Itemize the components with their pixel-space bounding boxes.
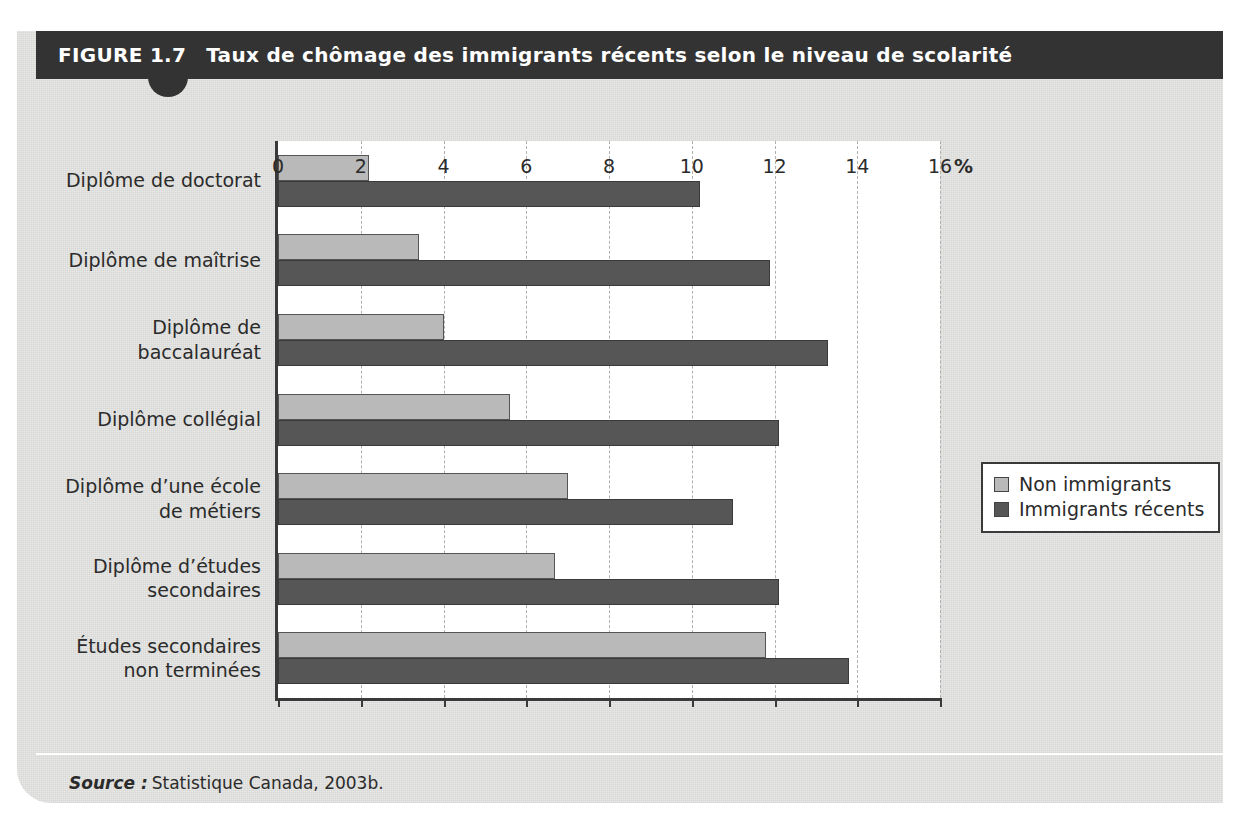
x-axis-tick-label: 16 (928, 155, 952, 177)
bar-immigrants-recents (278, 658, 849, 684)
x-axis-tick (775, 698, 777, 707)
category-labels: Diplôme de doctoratDiplôme de maîtriseDi… (25, 141, 261, 701)
x-axis-tick-label: 12 (762, 155, 786, 177)
bar-non-immigrants (278, 632, 766, 658)
category-label-line: de métiers (29, 499, 261, 523)
figure-number: FIGURE 1.7 (58, 43, 186, 67)
bar-immigrants-recents (278, 260, 770, 286)
x-axis-tick (692, 698, 694, 707)
category-label: Diplôme de maîtrise (29, 248, 261, 272)
x-axis-tick (940, 698, 942, 707)
category-label: Diplôme d’étudessecondaires (29, 554, 261, 603)
x-axis-tick (278, 698, 280, 707)
bar-immigrants-recents (278, 420, 779, 446)
legend-swatch-dark (994, 502, 1009, 517)
category-label-line: Diplôme d’études (29, 554, 261, 578)
category-label: Diplôme collégial (29, 407, 261, 431)
legend-item: Non immigrants (994, 472, 1204, 497)
category-label-line: non terminées (29, 658, 261, 682)
x-axis-tick (857, 698, 859, 707)
gridline (857, 141, 858, 698)
legend-label: Non immigrants (1019, 472, 1171, 497)
x-axis-tick (526, 698, 528, 707)
x-axis-tick-label: 2 (355, 155, 367, 177)
x-axis-tick-label: 8 (603, 155, 615, 177)
legend-label: Immigrants récents (1019, 497, 1204, 522)
category-label-line: Diplôme de maîtrise (29, 248, 261, 272)
x-axis-tick-label: 0 (272, 155, 284, 177)
legend-item: Immigrants récents (994, 497, 1204, 522)
figure-header-text: FIGURE 1.7Taux de chômage des immigrants… (58, 43, 1012, 67)
chart-legend: Non immigrantsImmigrants récents (981, 462, 1220, 533)
figure-header-bar: FIGURE 1.7Taux de chômage des immigrants… (36, 31, 1223, 79)
bar-non-immigrants (278, 553, 555, 579)
bar-non-immigrants (278, 394, 510, 420)
category-label-line: secondaires (29, 578, 261, 602)
source-line: Source :Statistique Canada, 2003b. (69, 773, 384, 793)
category-label: Diplôme debaccalauréat (29, 315, 261, 364)
source-text: Statistique Canada, 2003b. (152, 773, 384, 793)
bar-immigrants-recents (278, 499, 733, 525)
category-label: Diplôme d’une écolede métiers (29, 474, 261, 523)
x-axis-tick-label: 14 (845, 155, 869, 177)
figure-card: FIGURE 1.7Taux de chômage des immigrants… (17, 31, 1223, 803)
category-label-line: Diplôme d’une école (29, 474, 261, 498)
category-label: Diplôme de doctorat (29, 168, 261, 192)
bar-immigrants-recents (278, 181, 700, 207)
category-label-line: Diplôme collégial (29, 407, 261, 431)
x-axis-tick (444, 698, 446, 707)
x-axis-tick (361, 698, 363, 707)
bar-immigrants-recents (278, 579, 779, 605)
bar-non-immigrants (278, 234, 419, 260)
axis-unit-label: % (954, 155, 973, 177)
chart-area: Diplôme de doctoratDiplôme de maîtriseDi… (17, 79, 1223, 751)
figure-title: Taux de chômage des immigrants récents s… (206, 43, 1012, 67)
bar-non-immigrants (278, 314, 444, 340)
gridline (940, 141, 941, 698)
source-label: Source : (69, 773, 148, 793)
source-separator (36, 753, 1223, 755)
x-axis-tick-label: 4 (437, 155, 449, 177)
x-axis-tick (609, 698, 611, 707)
bar-non-immigrants (278, 473, 568, 499)
plot-area: 0246810121416 % (275, 141, 940, 701)
category-label-line: Études secondaires (29, 634, 261, 658)
category-label-line: Diplôme de doctorat (29, 168, 261, 192)
x-axis-tick-label: 10 (680, 155, 704, 177)
category-label: Études secondairesnon terminées (29, 634, 261, 683)
bar-immigrants-recents (278, 340, 828, 366)
category-label-line: Diplôme de (29, 315, 261, 339)
legend-swatch-light (994, 477, 1009, 492)
category-label-line: baccalauréat (29, 340, 261, 364)
x-axis-tick-label: 6 (520, 155, 532, 177)
